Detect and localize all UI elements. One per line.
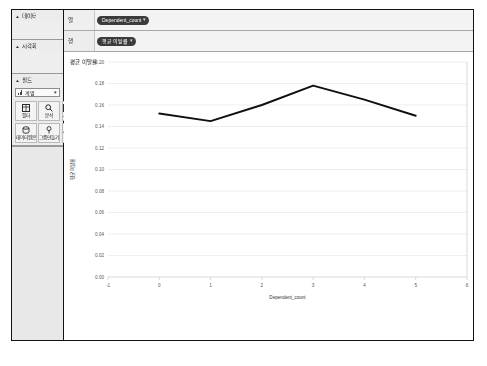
section-title-fields: 필드 [22,77,32,83]
panel-section-data[interactable]: ▲ 데이터 [12,10,63,40]
y-tick-label: 0.12 [95,146,104,151]
shelf-rows: 행 평균 이탈률 ▾ [64,31,473,52]
collapse-caret-icon[interactable]: ▲ [15,44,20,48]
tool-button-create-group[interactable]: 그룹만들기 [38,123,60,143]
y-tick-label: 0.16 [95,103,104,108]
x-axis-title: Dependent_count [269,295,306,300]
field-select[interactable]: 계열 ▾ [15,88,60,97]
y-tick-label: 0.20 [95,60,104,65]
table-icon [22,104,30,112]
shelf-label-rows: 행 [64,37,94,45]
section-title-visualization: 시각화 [22,43,36,49]
workspace: 열 Dependent_count ▾ 행 평균 이탈률 ▾ [64,10,473,340]
line-chart[interactable]: 0.000.020.040.060.080.100.120.140.160.18… [64,52,473,340]
field-select-value: 계열 [25,89,35,96]
chart-svg: 0.000.020.040.060.080.100.120.140.160.18… [64,52,473,315]
section-header-visualization[interactable]: ▲ 시각화 [12,40,63,51]
chevron-down-icon[interactable]: ▾ [143,16,146,24]
collapse-caret-icon[interactable]: ▲ [15,78,20,82]
pin-icon [45,126,53,134]
collapse-caret-icon[interactable]: ▲ [15,14,20,18]
y-tick-label: 0.06 [95,210,104,215]
panel-empty-area [12,146,63,341]
y-tick-label: 0.18 [95,81,104,86]
section-title-data: 데이터 [22,13,36,19]
x-tick-label: 0 [158,283,161,288]
database-icon [22,126,30,134]
field-chip-label: Dependent_count [102,16,141,24]
y-tick-label: 0.10 [95,167,104,172]
section-header-data[interactable]: ▲ 데이터 [12,10,63,21]
x-tick-label: 5 [414,283,417,288]
series-line[interactable] [159,86,415,121]
y-tick-label: 0.14 [95,124,104,129]
y-tick-label: 0.02 [95,253,104,258]
section-body-visualization [12,51,63,73]
tool-icon-grid: 필터 분석 서식 [12,99,63,145]
field-chip-label: 평균 이탈률 [102,37,128,45]
chart-canvas: 평균 이탈률 0.000.020.040.060.080.100.120.140… [64,52,473,340]
y-tick-label: 0.04 [95,232,104,237]
x-tick-label: 4 [363,283,366,288]
y-tick-label: 0.00 [95,275,104,280]
x-tick-label: 3 [312,283,315,288]
field-select-value-group: 계열 [18,89,35,96]
bar-chart-icon [18,90,23,95]
tool-label-filter: 필터 [22,113,30,118]
shelf-dropzone-columns[interactable]: Dependent_count ▾ [94,10,473,30]
chevron-down-icon[interactable]: ▾ [130,37,133,45]
field-chip-avg-attrition[interactable]: 평균 이탈률 ▾ [97,37,136,46]
magnifier-icon [45,104,53,112]
section-body-data [12,21,63,39]
y-tick-label: 0.08 [95,189,104,194]
field-chip-dependent-count[interactable]: Dependent_count ▾ [97,16,149,25]
x-tick-label: 6 [466,283,469,288]
y-axis-title: 평균 이탈률 [69,159,76,180]
left-panel: ▲ 데이터 ▲ 시각화 ▲ 필드 [12,10,64,340]
section-header-fields[interactable]: ▲ 필드 [12,74,63,85]
shelf-columns: 열 Dependent_count ▾ [64,10,473,31]
tool-label-analysis: 분석 [45,113,53,118]
tool-button-filter[interactable]: 필터 [15,101,37,121]
tool-button-datasource[interactable]: 데이터원본 [15,123,37,143]
shelf-label-columns: 열 [64,16,94,24]
panel-section-visualization[interactable]: ▲ 시각화 [12,40,63,74]
tool-button-analysis[interactable]: 분석 [38,101,60,121]
shelf-dropzone-rows[interactable]: 평균 이탈률 ▾ [94,31,473,51]
panel-section-fields[interactable]: ▲ 필드 계열 ▾ 필터 [12,74,63,146]
tool-label-create-group: 그룹만들기 [39,135,59,140]
x-tick-label: 2 [261,283,264,288]
x-tick-label: -1 [106,283,111,288]
screenshot-root: ▲ 데이터 ▲ 시각화 ▲ 필드 [0,0,487,366]
chevron-down-icon[interactable]: ▾ [54,90,57,95]
application-window: ▲ 데이터 ▲ 시각화 ▲ 필드 [11,9,474,341]
x-tick-label: 1 [209,283,212,288]
tool-label-datasource: 데이터원본 [16,135,36,140]
